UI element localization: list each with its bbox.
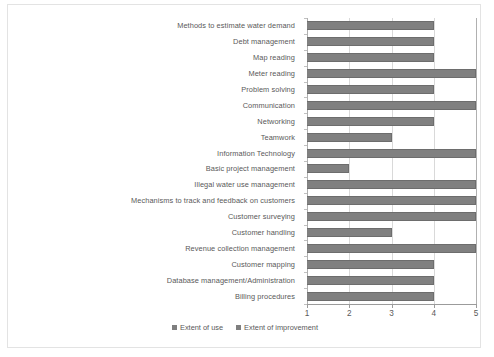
bar [307, 228, 392, 237]
category-axis-tick [304, 18, 307, 19]
category-axis-tick [304, 304, 307, 305]
bar [307, 212, 476, 221]
bar-row [307, 50, 476, 66]
bar-row [307, 256, 476, 272]
x-axis-tick [349, 304, 350, 308]
chart-plot-wrapper: Methods to estimate water demandDebt man… [8, 5, 482, 349]
bar-row [307, 225, 476, 241]
category-axis-tick [304, 256, 307, 257]
x-axis-tick [392, 304, 393, 308]
legend-item[interactable]: Extent of improvement [236, 323, 318, 332]
category-label: Revenue collection management [8, 240, 300, 256]
bar [307, 37, 434, 46]
category-label: Teamwork [8, 129, 300, 145]
bar [307, 260, 434, 269]
x-axis-tick-label: 3 [382, 309, 402, 318]
bar [307, 292, 434, 301]
bar-row [307, 209, 476, 225]
x-axis-tick [476, 304, 477, 308]
bar-row [307, 288, 476, 304]
legend-swatch-icon [236, 325, 241, 330]
category-label: Basic project management [8, 161, 300, 177]
category-axis-tick [304, 209, 307, 210]
category-label: Meter reading [8, 66, 300, 82]
category-label: Methods to estimate water demand [8, 18, 300, 34]
category-axis-tick [304, 193, 307, 194]
x-axis-tick [307, 304, 308, 308]
legend-item[interactable]: Extent of use [172, 323, 223, 332]
bar [307, 85, 434, 94]
bar-row [307, 34, 476, 50]
bar-row [307, 97, 476, 113]
bar-row [307, 145, 476, 161]
bar [307, 69, 476, 78]
category-axis-tick [304, 113, 307, 114]
category-label: Debt management [8, 34, 300, 50]
category-axis-labels: Methods to estimate water demandDebt man… [8, 18, 300, 304]
category-axis-tick [304, 240, 307, 241]
bar [307, 164, 349, 173]
bar-row [307, 113, 476, 129]
category-axis-tick [304, 66, 307, 67]
category-axis-tick [304, 82, 307, 83]
bar-row [307, 240, 476, 256]
category-label: Mechanisms to track and feedback on cust… [8, 193, 300, 209]
bar [307, 53, 434, 62]
bar-row [307, 129, 476, 145]
category-axis-tick [304, 272, 307, 273]
x-axis-tick [434, 304, 435, 308]
chart-frame: Methods to estimate water demandDebt man… [7, 4, 481, 348]
category-label: Map reading [8, 50, 300, 66]
category-axis-tick [304, 225, 307, 226]
bar [307, 101, 476, 110]
bar [307, 133, 392, 142]
category-axis-tick [304, 161, 307, 162]
bar [307, 21, 434, 30]
bar-row [307, 82, 476, 98]
category-label: Database management/Administration [8, 272, 300, 288]
bar-series [307, 18, 476, 304]
category-label: Illegal water use management [8, 177, 300, 193]
x-axis-tick-label: 2 [339, 309, 359, 318]
bar [307, 196, 476, 205]
category-label: Billing procedures [8, 288, 300, 304]
category-axis-tick [304, 129, 307, 130]
category-axis-tick [304, 145, 307, 146]
bar [307, 149, 476, 158]
bar [307, 244, 476, 253]
category-axis-tick [304, 50, 307, 51]
chart-legend: Extent of useExtent of improvement [8, 323, 482, 332]
category-label: Communication [8, 97, 300, 113]
category-axis-tick [304, 97, 307, 98]
bar [307, 276, 434, 285]
bar-row [307, 66, 476, 82]
bar-row [307, 193, 476, 209]
category-label: Customer handling [8, 225, 300, 241]
gridline [476, 18, 477, 304]
category-label: Customer mapping [8, 256, 300, 272]
legend-label: Extent of improvement [244, 323, 318, 332]
bar-row [307, 177, 476, 193]
bar-row [307, 161, 476, 177]
x-axis-tick-label: 4 [424, 309, 444, 318]
x-axis-tick-label: 1 [297, 309, 317, 318]
category-label: Customer surveying [8, 209, 300, 225]
plot-area [307, 18, 476, 304]
bar [307, 180, 476, 189]
legend-label: Extent of use [180, 323, 223, 332]
category-label: Information Technology [8, 145, 300, 161]
x-axis-tick-label: 5 [466, 309, 486, 318]
category-axis-tick [304, 288, 307, 289]
legend-swatch-icon [172, 325, 177, 330]
category-label: Networking [8, 113, 300, 129]
category-axis-tick [304, 177, 307, 178]
bar [307, 117, 434, 126]
bar-row [307, 272, 476, 288]
bar-row [307, 18, 476, 34]
category-label: Problem solving [8, 82, 300, 98]
category-axis-tick [304, 34, 307, 35]
